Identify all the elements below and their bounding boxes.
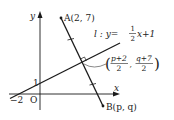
x-axis xyxy=(9,92,120,97)
point-b-dot xyxy=(102,105,105,108)
midpoint-leader-line xyxy=(84,64,106,67)
y-axis xyxy=(38,11,43,110)
midpoint-comma: , xyxy=(130,60,133,69)
origin-label: O xyxy=(30,95,37,105)
y-axis-label: y xyxy=(29,11,36,21)
point-b-label: B(p, q) xyxy=(106,102,137,112)
coordinate-diagram: y x O −2 1 A(2, 7) B(p, q) l : y= 1 2 x+… xyxy=(0,0,174,120)
equation-fraction-num: 1 xyxy=(131,25,135,33)
line-l-equation: l : y= 1 2 x+1 xyxy=(94,25,155,43)
midpoint-close-paren: ) xyxy=(154,55,160,73)
point-a-label: A(2, 7) xyxy=(63,13,95,23)
midpoint-open-paren: ( xyxy=(105,55,111,73)
midpoint-x-den: 2 xyxy=(117,64,122,73)
y-intercept-label: 1 xyxy=(33,78,39,88)
line-l xyxy=(10,43,120,99)
point-a-dot xyxy=(60,17,63,20)
midpoint-label: ( p+2 2 , q+7 2 ) xyxy=(105,54,160,73)
equation-suffix: x+1 xyxy=(137,29,155,39)
x-axis-label: x xyxy=(114,83,119,93)
midpoint-x-num: p+2 xyxy=(111,54,127,63)
y-axis-arrow-icon xyxy=(38,11,43,18)
equation-prefix: l : y= xyxy=(94,29,118,39)
equation-fraction-den: 2 xyxy=(131,35,135,43)
midpoint-y-num: q+7 xyxy=(136,54,152,63)
midpoint-y-den: 2 xyxy=(142,64,147,73)
x-intercept-label: −2 xyxy=(10,95,23,105)
